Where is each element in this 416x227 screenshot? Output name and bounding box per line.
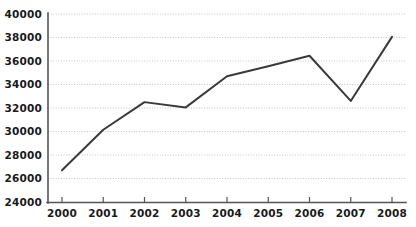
x-axis-tick-label: 2007 [336, 207, 366, 219]
x-axis-tick-marks [62, 197, 392, 202]
y-axis-tick-label: 30000 [4, 125, 42, 137]
x-axis-tick-label: 2008 [377, 207, 407, 219]
y-axis-tick-label: 38000 [4, 31, 42, 43]
data-series-line [62, 37, 392, 170]
x-axis-tick-label: 2000 [47, 207, 77, 219]
line-chart: 2400026000280003000032000340003600038000… [0, 0, 416, 227]
y-axis-tick-label: 32000 [4, 102, 42, 114]
x-axis-tick-label: 2003 [171, 207, 201, 219]
y-axis-tick-label: 28000 [4, 149, 42, 161]
x-axis-tick-label: 2004 [212, 207, 242, 219]
y-axis-tick-labels: 2400026000280003000032000340003600038000… [4, 8, 42, 208]
x-axis-tick-label: 2005 [253, 207, 283, 219]
x-axis-tick-labels: 200020012002200320042005200620072008 [47, 207, 407, 219]
y-axis-tick-label: 40000 [4, 8, 42, 20]
gridlines [48, 14, 406, 179]
y-axis-tick-label: 36000 [4, 55, 42, 67]
x-axis-tick-label: 2001 [88, 207, 118, 219]
y-axis-tick-label: 26000 [4, 172, 42, 184]
y-axis-tick-label: 34000 [4, 78, 42, 90]
x-axis-tick-label: 2006 [294, 207, 324, 219]
y-axis-tick-label: 24000 [4, 196, 42, 208]
x-axis-tick-label: 2002 [129, 207, 159, 219]
chart-canvas: 2400026000280003000032000340003600038000… [0, 0, 416, 227]
